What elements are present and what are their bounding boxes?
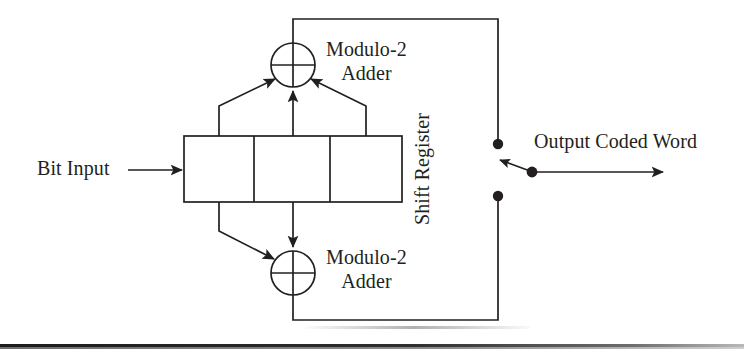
scan-smudge: [300, 326, 530, 329]
adder-top-line1: Modulo-2: [326, 38, 407, 60]
modulo-2-adder-bottom-label: Modulo-2 Adder: [326, 246, 407, 293]
modulo-2-adder-bottom-symbol: [271, 251, 315, 295]
shift-register-label: Shift Register: [411, 113, 435, 225]
adder-bottom-line1: Modulo-2: [326, 246, 407, 268]
figure-canvas: Bit Input Modulo-2 Adder Modulo-2 Adder …: [0, 0, 744, 352]
modulo-2-adder-top-label: Modulo-2 Adder: [326, 38, 407, 85]
shift-register-box: [184, 136, 402, 202]
modulo-2-adder-top-symbol: [271, 43, 315, 87]
bit-input-label: Bit Input: [37, 157, 110, 181]
output-switch-blade[interactable]: [500, 160, 530, 171]
output-coded-word-label: Output Coded Word: [534, 130, 697, 154]
adder-bottom-line2: Adder: [326, 270, 407, 294]
page-bottom-rule-shadow: [0, 347, 744, 349]
switch-contact-bottom-dot[interactable]: [493, 191, 503, 201]
adder-top-line2: Adder: [326, 62, 407, 86]
bottom-adder-taps: [219, 202, 293, 259]
switch-contact-top-dot[interactable]: [493, 139, 503, 149]
switch-pivot-dot[interactable]: [527, 167, 538, 178]
